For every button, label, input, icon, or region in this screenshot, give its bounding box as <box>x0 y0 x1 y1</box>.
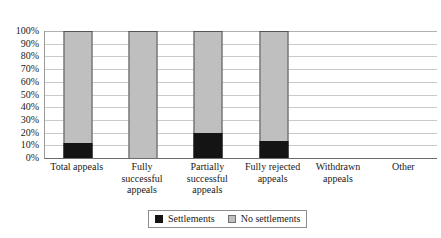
bar-segment-settlements[interactable] <box>63 143 92 158</box>
legend-swatch-icon <box>155 215 163 223</box>
bar-slot <box>306 31 371 158</box>
x-axis-label-line: appeals <box>297 173 378 185</box>
legend-label: Settlements <box>168 213 215 224</box>
bar-slot <box>110 31 175 158</box>
bar-segment-no-settlements[interactable] <box>128 31 157 158</box>
y-axis-tick-label: 50% <box>21 90 39 100</box>
percentage-stacked-bar-chart: 100%90%80%70%60%50%40%30%20%10%0% Total … <box>0 0 441 238</box>
y-axis-tick-label: 10% <box>21 140 39 150</box>
chart-legend: SettlementsNo settlements <box>148 210 307 228</box>
bar-segment-no-settlements[interactable] <box>194 31 223 133</box>
y-axis-tick-label: 30% <box>21 115 39 125</box>
y-axis-tick-label: 60% <box>21 77 39 87</box>
y-axis-tick-label: 20% <box>21 128 39 138</box>
y-axis-tick-label: 70% <box>21 64 39 74</box>
plot-area <box>44 31 437 159</box>
legend-item[interactable]: No settlements <box>228 213 301 224</box>
y-axis-tick-label: 80% <box>21 51 39 61</box>
legend-label: No settlements <box>241 213 301 224</box>
x-axis-label-5: Other <box>363 161 441 173</box>
y-axis-tick-label: 100% <box>16 26 39 36</box>
bars-layer <box>45 31 437 158</box>
bar-slot <box>372 31 437 158</box>
x-axis-category-labels: Total appealsFullysuccessfulappealsParti… <box>44 161 436 203</box>
legend-swatch-icon <box>228 215 236 223</box>
stacked-bar[interactable] <box>259 31 288 158</box>
y-axis-tick-label: 40% <box>21 102 39 112</box>
y-axis: 100%90%80%70%60%50%40%30%20%10%0% <box>0 24 42 164</box>
legend-item[interactable]: Settlements <box>155 213 215 224</box>
stacked-bar[interactable] <box>194 31 223 158</box>
bar-slot <box>241 31 306 158</box>
stacked-bar[interactable] <box>63 31 92 158</box>
bar-slot <box>45 31 110 158</box>
bar-segment-settlements[interactable] <box>259 141 288 158</box>
y-axis-tick-label: 90% <box>21 39 39 49</box>
x-axis-label-line: appeals <box>167 184 248 196</box>
bar-slot <box>176 31 241 158</box>
bar-segment-settlements[interactable] <box>194 133 223 158</box>
bar-segment-no-settlements[interactable] <box>259 31 288 141</box>
bar-segment-no-settlements[interactable] <box>63 31 92 143</box>
stacked-bar[interactable] <box>128 31 157 158</box>
x-axis-label-line: Other <box>363 161 441 173</box>
